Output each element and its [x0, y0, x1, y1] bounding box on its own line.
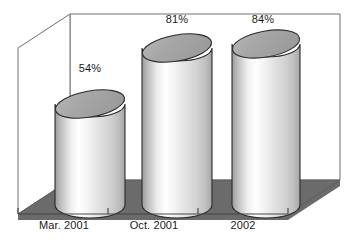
chart-canvas [0, 0, 352, 241]
category-label-mar-2001: Mar. 2001 [39, 219, 89, 231]
bar-cylinder-oct-2001 [140, 29, 213, 218]
bar-body-1 [55, 104, 125, 218]
bar-cylinder-mar-2001 [53, 85, 126, 218]
category-label-oct-2001: Oct. 2001 [130, 219, 179, 231]
value-label-2002: 84% [252, 13, 274, 25]
value-label-oct-2001: 81% [166, 13, 188, 25]
category-label-2002: 2002 [231, 219, 256, 231]
bar-cylinder-2002 [230, 25, 301, 218]
value-label-mar-2001: 54% [79, 62, 101, 74]
bar-body-3 [232, 44, 300, 218]
cylinder-bar-chart: 54% 81% 84% Mar. 2001 Oct. 2001 2002 [0, 0, 352, 241]
bar-body-2 [142, 48, 212, 218]
